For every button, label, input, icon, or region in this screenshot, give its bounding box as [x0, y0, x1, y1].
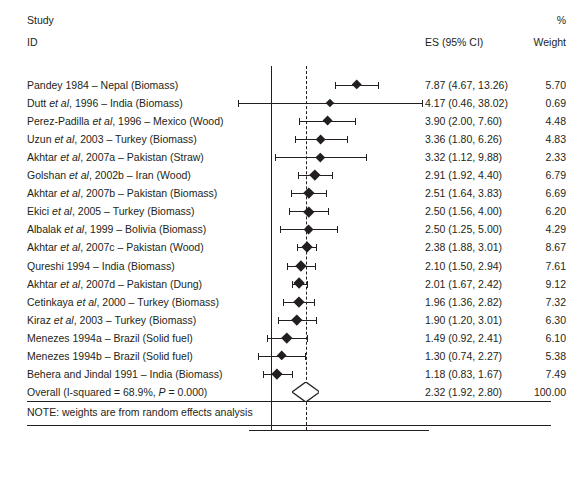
effect-size-value-6: 2.51 (1.64, 3.83): [425, 187, 502, 199]
weight-column-header-bottom: Weight: [500, 36, 566, 48]
ci-cap-lower-8: [280, 226, 281, 233]
effect-size-value-13: 1.90 (1.20, 3.01): [425, 314, 502, 326]
ci-cap-lower-7: [289, 208, 290, 215]
ci-cap-lower-9: [297, 244, 298, 251]
weight-value-1: 0.69: [500, 97, 566, 109]
study-column-header-line1: Study: [27, 14, 54, 26]
confidence-interval-line-14: [267, 338, 307, 339]
effect-size-value-0: 7.87 (4.67, 13.26): [425, 79, 508, 91]
confidence-interval-line-4: [275, 157, 366, 158]
study-marker-10: [296, 260, 307, 271]
ci-cap-upper-8: [337, 226, 338, 233]
study-label-0: Pandey 1984 – Nepal (Biomass): [27, 79, 178, 91]
emphasis-text: et al: [54, 314, 74, 326]
study-marker-16: [272, 368, 283, 379]
emphasis-text: et al: [60, 241, 80, 253]
effect-size-value-5: 2.91 (1.92, 4.40): [425, 169, 502, 181]
study-label-7: Ekici et al, 2005 – Turkey (Biomass): [27, 205, 195, 217]
study-marker-3: [316, 134, 326, 144]
confidence-interval-line-16: [263, 374, 292, 375]
emphasis-text: et al: [60, 278, 80, 290]
null-effect-line: [271, 66, 272, 430]
effect-size-value-11: 2.01 (1.67, 2.42): [425, 278, 502, 290]
study-label-overall: Overall (I-squared = 68.9%, P = 0.000): [27, 386, 207, 398]
ci-cap-lower-6: [291, 190, 292, 197]
ci-cap-lower-14: [267, 335, 268, 342]
weight-value-6: 6.69: [500, 187, 566, 199]
study-label-16: Behera and Jindal 1991 – India (Biomass): [27, 368, 223, 380]
study-label-8: Albalak et al, 1999 – Bolivia (Biomass): [27, 223, 206, 235]
weight-value-9: 8.67: [500, 241, 566, 253]
ci-cap-upper-9: [316, 244, 317, 251]
ci-cap-lower-1: [238, 100, 239, 107]
ci-cap-lower-3: [295, 136, 296, 143]
note-text: NOTE: weights are from random effects an…: [27, 406, 253, 418]
effect-size-value-15: 1.30 (0.74, 2.27): [425, 350, 502, 362]
study-marker-6: [303, 188, 314, 199]
weight-value-8: 4.29: [500, 223, 566, 235]
study-label-13: Kiraz et al, 2003 – Turkey (Biomass): [27, 314, 196, 326]
study-marker-1: [326, 99, 334, 107]
summary-effect-line: [306, 66, 307, 430]
weight-value-14: 6.10: [500, 332, 566, 344]
confidence-interval-line-7: [289, 211, 328, 212]
study-label-2: Perez-Padilla et al, 1996 – Mexico (Wood…: [27, 115, 224, 127]
weight-value-10: 7.61: [500, 260, 566, 272]
study-marker-11: [294, 278, 306, 290]
ci-cap-lower-2: [299, 118, 300, 125]
emphasis-text: et al: [64, 223, 84, 235]
confidence-interval-line-5: [298, 175, 332, 176]
study-label-4: Akhtar et al, 2007a – Pakistan (Straw): [27, 151, 204, 163]
effect-size-value-14: 1.49 (0.92, 2.41): [425, 332, 502, 344]
confidence-interval-line-1: [238, 103, 422, 104]
study-label-5: Golshan et al, 2002b – Iran (Wood): [27, 169, 191, 181]
ci-cap-upper-6: [326, 190, 327, 197]
note-rule-bottom: [27, 425, 551, 426]
ci-cap-upper-10: [315, 263, 316, 270]
ci-cap-upper-1: [422, 100, 423, 107]
confidence-interval-line-6: [291, 193, 326, 194]
weight-column-header-top: %: [500, 14, 566, 26]
study-marker-15: [276, 350, 286, 360]
ci-cap-upper-11: [307, 281, 308, 288]
confidence-interval-line-0: [335, 85, 378, 86]
effect-size-value-3: 3.36 (1.80, 6.26): [425, 133, 502, 145]
ci-cap-lower-13: [278, 317, 279, 324]
confidence-interval-line-10: [287, 266, 315, 267]
effect-size-value-4: 3.32 (1.12, 9.88): [425, 151, 502, 163]
weight-value-0: 5.70: [500, 79, 566, 91]
effect-size-value-16: 1.18 (0.83, 1.67): [425, 368, 502, 380]
effect-size-value-12: 1.96 (1.36, 2.82): [425, 296, 502, 308]
emphasis-text: et al: [77, 296, 97, 308]
emphasis-text: et al: [60, 187, 80, 199]
ci-cap-upper-7: [328, 208, 329, 215]
weight-value-2: 4.48: [500, 115, 566, 127]
confidence-interval-line-3: [295, 139, 347, 140]
confidence-interval-line-12: [283, 302, 313, 303]
weight-value-11: 9.12: [500, 278, 566, 290]
study-marker-5: [309, 170, 320, 181]
ci-cap-lower-5: [298, 172, 299, 179]
emphasis-text: P: [159, 386, 166, 398]
ci-cap-upper-12: [314, 299, 315, 306]
weight-value-overall: 100.00: [500, 386, 566, 398]
study-label-14: Menezes 1994a – Brazil (Solid fuel): [27, 332, 193, 344]
weight-value-3: 4.83: [500, 133, 566, 145]
confidence-interval-line-11: [292, 284, 307, 285]
study-marker-8: [304, 224, 314, 234]
study-marker-2: [322, 116, 332, 126]
ci-cap-upper-15: [305, 353, 306, 360]
effect-size-value-2: 3.90 (2.00, 7.60): [425, 115, 502, 127]
weight-value-5: 6.79: [500, 169, 566, 181]
study-label-15: Menezes 1994b – Brazil (Solid fuel): [27, 350, 193, 362]
forest-plot-figure: Study ID ES (95% CI) % Weight Pandey 198…: [0, 0, 578, 484]
ci-cap-lower-11: [292, 281, 293, 288]
emphasis-text: et al: [54, 133, 74, 145]
weight-value-4: 2.33: [500, 151, 566, 163]
study-marker-4: [316, 153, 325, 162]
ci-cap-upper-16: [292, 371, 293, 378]
confidence-interval-line-2: [299, 121, 355, 122]
effect-size-value-10: 2.10 (1.50, 2.94): [425, 260, 502, 272]
ci-cap-upper-4: [366, 154, 367, 161]
study-label-1: Dutt et al, 1996 – India (Biomass): [27, 97, 183, 109]
